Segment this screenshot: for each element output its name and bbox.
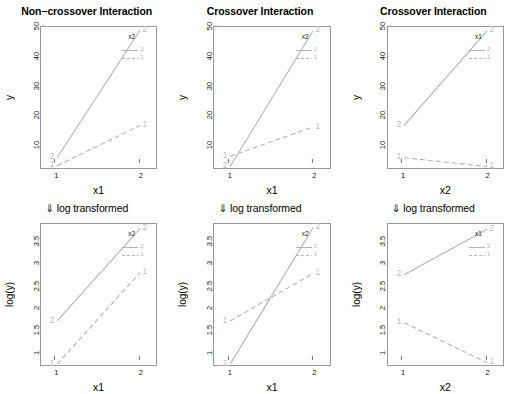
panel-bottom-right: ⇓ log transformed log(y) 11.522.533.5 22… bbox=[347, 197, 520, 394]
x-tick-mark bbox=[228, 159, 229, 163]
legend-label: 1 bbox=[314, 251, 317, 257]
y-tick: 40 bbox=[379, 52, 387, 60]
panel-bottom-middle: ⇓ log transformed log(y) 11.522.533.5 22… bbox=[173, 197, 346, 394]
x-axis-ticks: 12 bbox=[213, 368, 330, 378]
y-tick-label: 2 bbox=[206, 306, 214, 310]
x-tick-label: 1 bbox=[401, 171, 405, 180]
legend-label: 1 bbox=[487, 54, 490, 60]
legend-title: x2 bbox=[128, 33, 135, 40]
y-tick-label: 40 bbox=[379, 52, 387, 60]
legend-label: 2 bbox=[314, 243, 317, 249]
y-tick: 3.5 bbox=[206, 236, 214, 246]
legend-label: 1 bbox=[314, 54, 317, 60]
y-tick-label: 20 bbox=[379, 111, 387, 119]
legend-entry-2: 2 bbox=[296, 47, 322, 54]
y-tick: 20 bbox=[206, 111, 214, 119]
y-tick-label: 2.5 bbox=[379, 280, 387, 290]
y-tick-label: 2 bbox=[379, 306, 387, 310]
point-label: 1 bbox=[489, 356, 493, 367]
point-label: 2 bbox=[50, 314, 54, 325]
x-axis-ticks: 12 bbox=[40, 171, 157, 181]
y-tick-label: 20 bbox=[206, 111, 214, 119]
y-tick: 40 bbox=[33, 52, 41, 60]
legend-key-dashed bbox=[296, 58, 312, 59]
y-tick: 1.5 bbox=[206, 325, 214, 335]
x-axis-label: x1 bbox=[213, 184, 330, 196]
y-tick: 1 bbox=[379, 351, 387, 355]
legend-key-dashed bbox=[469, 58, 485, 59]
legend-entry-1: 1 bbox=[122, 252, 148, 259]
legend-label: 2 bbox=[140, 46, 143, 52]
plot-area: 2211 x221 bbox=[213, 26, 330, 169]
legend-title: x2 bbox=[128, 230, 135, 237]
y-axis-ticks: 1020304050 bbox=[373, 26, 387, 169]
y-axis-ticks: 11.522.533.5 bbox=[199, 223, 213, 366]
y-tick-label: 20 bbox=[33, 111, 41, 119]
x-axis-ticks: 12 bbox=[387, 368, 504, 378]
x-axis-label: x1 bbox=[40, 184, 157, 196]
x-tick-label: 1 bbox=[54, 368, 58, 377]
y-axis-label: y bbox=[351, 26, 363, 169]
x-tick-label: 2 bbox=[485, 171, 489, 180]
x-tick-label: 2 bbox=[139, 368, 143, 377]
y-tick-label: 1.5 bbox=[206, 325, 214, 335]
legend: x121 bbox=[469, 33, 499, 67]
series-line-1 bbox=[404, 323, 487, 363]
point-label: 2 bbox=[396, 118, 400, 129]
y-axis-label: log(y) bbox=[177, 223, 189, 366]
series-line-1 bbox=[230, 273, 313, 321]
x-tick-mark bbox=[54, 159, 55, 163]
y-axis-ticks: 11.522.533.5 bbox=[26, 223, 40, 366]
legend-key-solid bbox=[122, 247, 138, 248]
legend-entry-1: 1 bbox=[469, 252, 495, 259]
legend-title: x2 bbox=[302, 33, 309, 40]
legend-title: x1 bbox=[475, 33, 482, 40]
x-tick-label: 2 bbox=[312, 171, 316, 180]
point-label: 1 bbox=[489, 159, 493, 170]
panel-title: Crossover Interaction bbox=[347, 5, 520, 17]
y-tick: 1.5 bbox=[379, 325, 387, 335]
y-tick: 20 bbox=[33, 111, 41, 119]
legend-entry-1: 1 bbox=[296, 55, 322, 62]
legend-key-solid bbox=[469, 50, 485, 51]
x-tick-label: 2 bbox=[485, 368, 489, 377]
series-line-1 bbox=[57, 125, 140, 165]
y-tick: 30 bbox=[33, 81, 41, 89]
y-tick-label: 10 bbox=[33, 141, 41, 149]
y-tick: 3.5 bbox=[33, 236, 41, 246]
x-axis-label: x1 bbox=[40, 381, 157, 393]
legend-key-solid bbox=[469, 247, 485, 248]
legend-key-dashed bbox=[469, 255, 485, 256]
y-tick: 1 bbox=[33, 351, 41, 355]
y-tick-label: 3 bbox=[33, 261, 41, 265]
y-tick: 2 bbox=[379, 306, 387, 310]
y-tick: 10 bbox=[33, 141, 41, 149]
y-axis-label: log(y) bbox=[4, 223, 16, 366]
y-axis-label: log(y) bbox=[351, 223, 363, 366]
point-label: 1 bbox=[223, 314, 227, 325]
legend-label: 2 bbox=[487, 46, 490, 52]
y-tick: 20 bbox=[379, 111, 387, 119]
series-line-1 bbox=[404, 158, 487, 167]
x-tick-label: 2 bbox=[312, 368, 316, 377]
y-tick-label: 3.5 bbox=[33, 236, 41, 246]
y-tick-label: 10 bbox=[379, 141, 387, 149]
plot-area: 2211 x121 bbox=[387, 26, 504, 169]
y-tick: 3.5 bbox=[379, 236, 387, 246]
y-tick: 3 bbox=[206, 261, 214, 265]
series-line-1 bbox=[230, 127, 313, 156]
series-line-1 bbox=[57, 272, 140, 364]
x-tick-label: 1 bbox=[228, 171, 232, 180]
legend-entry-1: 1 bbox=[469, 55, 495, 62]
legend: x221 bbox=[122, 230, 152, 264]
y-tick: 2 bbox=[206, 306, 214, 310]
legend-key-dashed bbox=[122, 58, 138, 59]
y-tick-label: 1.5 bbox=[33, 325, 41, 335]
legend-label: 2 bbox=[140, 243, 143, 249]
legend-key-solid bbox=[296, 50, 312, 51]
y-tick: 50 bbox=[206, 22, 214, 30]
legend-entry-1: 1 bbox=[122, 55, 148, 62]
x-axis-ticks: 12 bbox=[40, 368, 157, 378]
plot-area: 2211 x221 bbox=[213, 223, 330, 366]
x-axis-ticks: 12 bbox=[387, 171, 504, 181]
